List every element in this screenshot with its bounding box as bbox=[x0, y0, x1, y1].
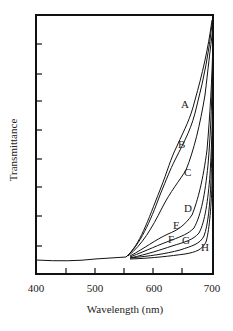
curve-baseline bbox=[36, 257, 126, 261]
curve-A bbox=[126, 20, 212, 257]
transmittance-chart: 400 500 600 700 Wavelength (nm) Transmit… bbox=[0, 0, 233, 331]
curve-label-H: H bbox=[201, 241, 209, 253]
curves bbox=[36, 20, 213, 261]
curve-label-D: D bbox=[184, 202, 192, 214]
x-tick-700: 700 bbox=[204, 282, 221, 294]
curve-label-B: B bbox=[178, 138, 185, 150]
x-tick-400: 400 bbox=[28, 282, 45, 294]
y-axis-label: Transmittance bbox=[7, 119, 19, 182]
curve-C bbox=[128, 28, 213, 256]
curve-F bbox=[130, 65, 213, 258]
x-tick-600: 600 bbox=[146, 282, 163, 294]
curve-label-C: C bbox=[184, 166, 191, 178]
curve-G bbox=[130, 80, 213, 258]
x-axis-label: Wavelength (nm) bbox=[87, 303, 164, 316]
curve-label-G: G bbox=[182, 234, 190, 246]
curve-D bbox=[130, 40, 213, 256]
curve-label-E: E bbox=[173, 219, 180, 231]
x-tick-500: 500 bbox=[87, 282, 104, 294]
curve-B bbox=[126, 24, 212, 257]
curve-label-F: F bbox=[168, 233, 174, 245]
curve-label-A: A bbox=[181, 98, 189, 110]
